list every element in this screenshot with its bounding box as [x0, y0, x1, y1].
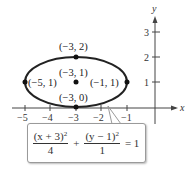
point-top: [74, 55, 79, 60]
point-label-top: (−3, 2): [59, 41, 88, 53]
equals-one: = 1: [125, 137, 139, 149]
fraction-x: (x + 3)2 4: [33, 130, 69, 157]
point-label-right: (−1, 1): [90, 77, 119, 89]
point-label-bottom: (−3, 0): [59, 92, 88, 104]
denominator-x: 4: [48, 144, 54, 157]
denominator-y: 1: [99, 144, 105, 157]
equation-box: (x + 3)2 4 + (y − 1)2 1 = 1: [27, 123, 146, 163]
x-axis-arrow-icon: [171, 106, 178, 111]
x-tick-label: −1: [121, 112, 132, 123]
y-axis-arrow-icon: [153, 16, 158, 23]
numerator-y: (y − 1): [85, 130, 115, 142]
point-right: [125, 80, 130, 85]
point-bottom: [74, 105, 79, 110]
y-axis-label: y: [151, 3, 157, 14]
x-tick-label: −5: [17, 112, 28, 123]
x-axis-label: x: [179, 102, 185, 113]
x-tick-label: −3: [68, 112, 79, 123]
y-tick-label: 3: [144, 27, 149, 38]
y-ticks: [152, 32, 160, 82]
x-tick-label: −2: [93, 112, 104, 123]
point-label-center: (−3, 1): [59, 67, 88, 79]
fraction-y: (y − 1)2 1: [84, 130, 120, 157]
y-tick-label: 2: [144, 52, 149, 63]
x-tick-label: −4: [42, 112, 53, 123]
plus-sign: +: [73, 137, 79, 149]
point-center: [74, 80, 79, 85]
numerator-x: (x + 3): [34, 130, 64, 142]
point-label-left: (−5, 1): [28, 77, 57, 89]
y-tick-label: 1: [144, 77, 149, 88]
point-left: [23, 80, 28, 85]
